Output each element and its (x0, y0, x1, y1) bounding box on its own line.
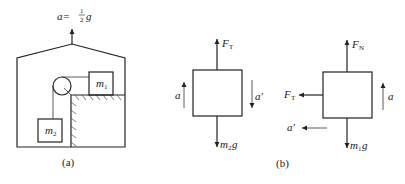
svg-text:F: F (351, 38, 359, 50)
elevator-acceleration-label: a= 1 2 g (57, 7, 92, 24)
svg-text:g: g (232, 138, 238, 150)
fbd-m1: F N F T m 1 g a a′ (283, 38, 394, 153)
svg-text:a: a (388, 90, 394, 102)
svg-text:m: m (350, 139, 358, 151)
svg-text:N: N (359, 44, 364, 52)
svg-text:F: F (283, 88, 291, 100)
caption-b: (b) (276, 157, 289, 170)
svg-text:2: 2 (80, 16, 84, 24)
svg-text:g: g (362, 139, 368, 151)
svg-text:T: T (291, 94, 296, 102)
svg-text:F: F (221, 37, 229, 49)
svg-text:m: m (96, 77, 104, 89)
svg-text:2: 2 (53, 130, 57, 138)
block-m1: m 1 (89, 72, 113, 95)
svg-text:a′: a′ (255, 90, 264, 102)
svg-text:1: 1 (104, 83, 108, 91)
caption-a: (a) (62, 156, 75, 169)
svg-text:g: g (86, 10, 92, 22)
svg-text:1: 1 (80, 7, 84, 15)
panel-a: a= 1 2 g (17, 7, 125, 169)
block-m2: m 2 (38, 119, 62, 142)
svg-text:a: a (175, 89, 181, 101)
svg-text:m: m (45, 124, 53, 136)
table-surface (71, 95, 125, 147)
svg-text:a=: a= (57, 10, 70, 22)
svg-text:a′: a′ (287, 121, 296, 133)
fbd-m2: F T m 2 g a a′ (175, 37, 264, 152)
panel-b: F T m 2 g a a′ F N F T m 1 g a (175, 37, 394, 170)
svg-text:m: m (220, 138, 228, 150)
svg-text:T: T (229, 43, 234, 51)
diagram-canvas: a= 1 2 g (0, 0, 405, 184)
table-hatching (71, 95, 121, 146)
